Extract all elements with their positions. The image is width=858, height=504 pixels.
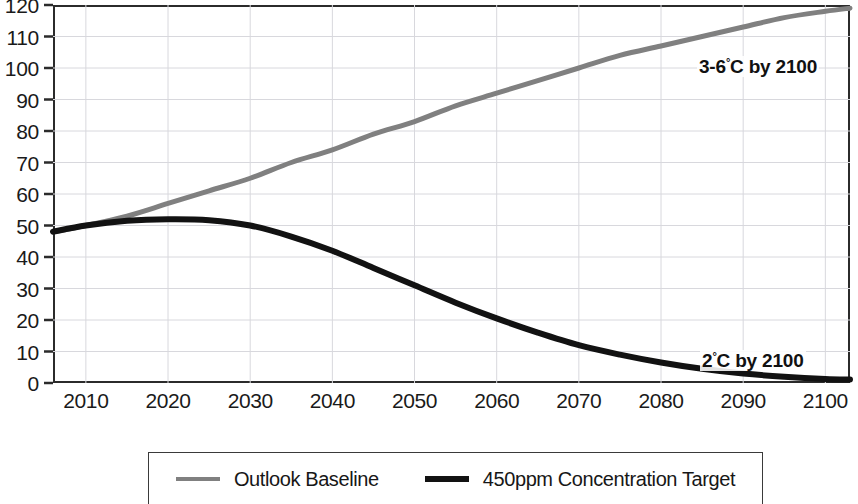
annotation-baseline-suffix: C by 2100 bbox=[730, 56, 817, 77]
legend-line-swatch-icon bbox=[425, 476, 469, 482]
x-tick-label: 2090 bbox=[721, 390, 766, 411]
x-tick-label: 2100 bbox=[803, 390, 848, 411]
x-tick-label: 2010 bbox=[63, 390, 108, 411]
chart-legend: Outlook Baseline450ppm Concentration Tar… bbox=[148, 452, 763, 504]
legend-line-swatch-icon bbox=[176, 477, 220, 481]
legend-item-baseline[interactable]: Outlook Baseline bbox=[176, 469, 379, 489]
emissions-projection-chart: 1201101009080706050403020100 20102020203… bbox=[0, 0, 858, 504]
legend-item-label: Outlook Baseline bbox=[234, 469, 379, 489]
x-tick-label: 2020 bbox=[145, 390, 190, 411]
x-tick-label: 2080 bbox=[638, 390, 683, 411]
x-tick-label: 2040 bbox=[310, 390, 355, 411]
x-tick-label: 2030 bbox=[228, 390, 273, 411]
annotation-target-value: 2 bbox=[702, 350, 712, 371]
annotation-target-suffix: C by 2100 bbox=[717, 350, 804, 371]
annotation-baseline-value: 3-6 bbox=[699, 56, 726, 77]
x-tick-label: 2050 bbox=[392, 390, 437, 411]
annotation-target-temperature: 2°C by 2100 bbox=[700, 350, 806, 371]
x-tick-label: 2070 bbox=[556, 390, 601, 411]
annotation-baseline-temperature: 3-6°C by 2100 bbox=[697, 56, 819, 77]
x-tick-label: 2060 bbox=[474, 390, 519, 411]
legend-item-label: 450ppm Concentration Target bbox=[483, 469, 735, 489]
legend-item-target[interactable]: 450ppm Concentration Target bbox=[425, 469, 735, 489]
